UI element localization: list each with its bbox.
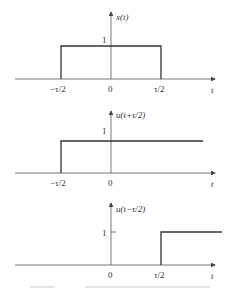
tick-tau-half: τ/2	[154, 84, 165, 94]
panel-delayed-step: u(t−τ/2) 1 0 τ/2 t	[15, 203, 222, 281]
ylabel: u(t+τ/2)	[116, 110, 145, 120]
step-signal	[161, 232, 222, 265]
step-signal	[61, 141, 203, 173]
tick-zero: 0	[108, 84, 113, 94]
xlabel: t	[211, 85, 214, 95]
amplitude-label: 1	[102, 126, 107, 136]
amplitude-label: 1	[102, 35, 107, 45]
tick-zero: 0	[108, 270, 113, 280]
ylabel: x(t)	[115, 12, 129, 22]
panel-advanced-step: u(t+τ/2) 1 −τ/2 0 t	[15, 110, 215, 189]
tick-neg-tau-half: −τ/2	[50, 84, 66, 94]
panel-rect-pulse: x(t) 1 −τ/2 0 τ/2 t	[15, 12, 215, 95]
tick-tau-half: τ/2	[154, 270, 165, 280]
tick-zero: 0	[108, 178, 113, 188]
signal-diagram: x(t) 1 −τ/2 0 τ/2 t u(t+τ/2) 1 −τ/2 0 t …	[0, 0, 232, 290]
amplitude-label: 1	[102, 228, 107, 238]
xlabel: t	[211, 271, 214, 281]
xlabel: t	[211, 179, 214, 189]
ylabel: u(t−τ/2)	[116, 204, 145, 214]
tick-neg-tau-half: −τ/2	[50, 178, 66, 188]
